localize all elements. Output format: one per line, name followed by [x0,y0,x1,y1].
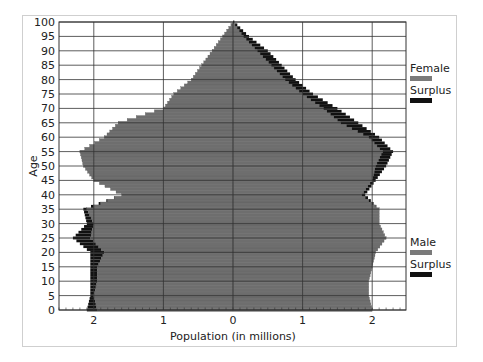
female-surplus-bar [292,84,302,87]
male-surplus-bar [88,303,96,306]
female-bar [233,170,374,173]
y-tick-label: 55 [41,146,55,159]
y-tick-label: 35 [41,203,55,216]
male-bar [181,87,233,90]
female-bar [233,260,374,263]
female-surplus-bar [260,52,270,55]
female-bar [233,248,378,251]
male-bar [81,156,233,159]
female-surplus-bar [274,67,284,70]
male-surplus-bar [84,225,93,228]
male-surplus-bar [99,202,101,205]
male-bar [85,147,233,150]
female-bar [233,159,378,162]
female-surplus-bar [368,185,371,188]
female-surplus-bar [377,144,387,147]
male-bar [227,29,233,32]
male-bar [204,61,233,64]
female-surplus-bar [346,124,362,127]
male-bar [198,70,233,73]
female-surplus-bar [372,139,382,142]
female-surplus-bar [364,190,367,193]
male-bar [193,75,233,78]
male-bar [82,159,233,162]
male-surplus-bar [90,254,103,257]
y-tick-label: 45 [41,174,55,187]
male-bar [90,214,233,217]
female-bar [233,288,369,291]
female-bar [233,90,299,93]
female-bar [233,52,260,55]
male-surplus-bar [106,199,107,202]
male-bar [214,46,233,49]
female-bar [233,228,382,231]
female-bar [233,234,385,237]
male-bar [229,26,233,29]
female-surplus-bar [373,176,378,179]
male-surplus-bar [78,231,91,234]
female-bar [233,156,380,159]
female-bar [233,271,371,274]
female-surplus-bar [378,159,388,162]
female-surplus-bar [299,90,309,93]
female-bar [233,75,282,78]
female-surplus-bar [319,104,332,107]
female-bar [233,46,255,49]
female-bar [233,142,374,145]
y-tick-label: 70 [41,102,55,115]
female-bar [233,61,268,64]
female-bar [233,173,374,176]
female-bar [233,38,246,41]
female-bar [233,205,376,208]
female-bar [233,211,379,214]
female-surplus-bar [381,153,391,156]
female-bar [233,98,311,101]
female-surplus-bar [380,147,390,150]
male-bar [99,182,233,185]
male-bar [97,306,233,309]
male-bar [92,219,233,222]
male-bar [99,262,233,265]
female-surplus-bar [263,55,273,58]
female-surplus-bar [374,142,384,145]
male-bar [116,190,233,193]
female-surplus-bar [380,156,390,159]
y-tick-label: 85 [41,59,55,72]
female-surplus-bar [289,81,299,84]
gridlines [59,22,406,310]
female-surplus-bar [330,113,345,116]
y-tick-label: 80 [41,74,55,87]
male-bar [97,268,233,271]
male-bar [92,176,233,179]
female-bar [233,130,358,133]
male-bar [154,110,233,113]
female-surplus-bar [268,61,278,64]
female-bar [233,67,274,70]
y-axis-label: Age [27,155,40,177]
male-bar [208,55,233,58]
female-bar [233,110,327,113]
female-surplus-bar [334,116,350,119]
male-bar [115,124,233,127]
male-bar [97,283,233,286]
female-bar [233,188,366,191]
female-bar [233,216,379,219]
male-bar [200,67,233,70]
y-tick-label: 5 [48,290,55,303]
male-bar [172,95,233,98]
x-tick-label: 0 [230,314,237,327]
male-bar [92,228,233,231]
female-bar [233,72,280,75]
female-bar [233,214,379,217]
female-surplus-bar [315,101,328,104]
male-bar [225,32,233,35]
y-tick-label: 65 [41,117,55,130]
male-bar [111,188,233,191]
female-bar [233,199,369,202]
male-bar [188,81,233,84]
female-bar [233,124,346,127]
male-bar [145,113,233,116]
male-surplus-bar [85,216,91,219]
male-bar [95,288,233,291]
female-bar [233,144,377,147]
